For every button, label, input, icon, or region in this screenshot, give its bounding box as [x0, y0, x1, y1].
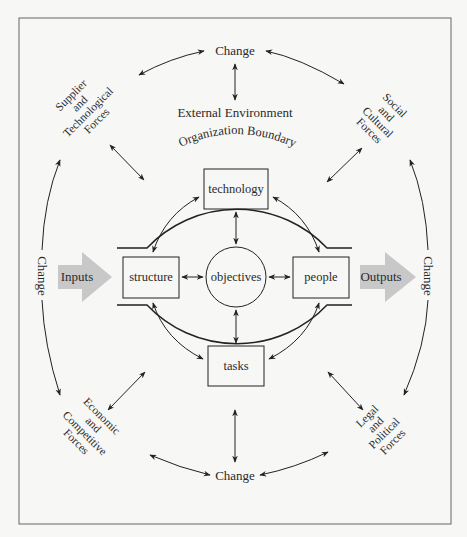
- change-arrow-top-right: [266, 51, 344, 84]
- social-force-arrow: [327, 148, 362, 182]
- change-arrow-top-left: [139, 51, 204, 75]
- legal-force-arrow: [328, 372, 363, 410]
- inputs-label: Inputs: [61, 269, 94, 284]
- external-environment-label: External Environment: [177, 105, 293, 120]
- legal-political-forces: Legal and Political Forces: [349, 398, 410, 459]
- structure-tasks-arrow: [153, 303, 203, 359]
- technology-label: technology: [208, 182, 264, 196]
- change-label-right: Change: [421, 256, 436, 296]
- outputs-label: Outputs: [360, 269, 401, 284]
- supplier-technological-forces: Supplier and Technological Forces: [44, 68, 124, 148]
- objectives-label: objectives: [211, 270, 262, 284]
- supplier-force-arrow: [110, 145, 144, 180]
- economic-force-arrow: [108, 372, 145, 410]
- people-tasks-arrow: [269, 303, 319, 359]
- change-label-top: Change: [215, 43, 255, 58]
- structure-label: structure: [129, 270, 173, 284]
- change-arrow-bottom-right: [260, 452, 328, 475]
- tasks-label: tasks: [224, 359, 249, 373]
- people-label: people: [304, 270, 338, 284]
- social-cultural-forces: Social and Cultural Forces: [352, 87, 413, 148]
- org-environment-diagram: Change External Environment Organization…: [0, 0, 467, 537]
- change-arrow-left-lower: [42, 300, 60, 395]
- organization-boundary-label: Organization Boundary: [176, 123, 299, 150]
- change-arrow-bottom-left: [150, 455, 210, 475]
- change-arrow-right-upper: [410, 160, 428, 250]
- change-arrow-left-upper: [42, 160, 60, 250]
- change-label-left: Change: [35, 256, 50, 296]
- change-label-bottom: Change: [215, 468, 255, 483]
- change-arrow-right-lower: [404, 300, 428, 395]
